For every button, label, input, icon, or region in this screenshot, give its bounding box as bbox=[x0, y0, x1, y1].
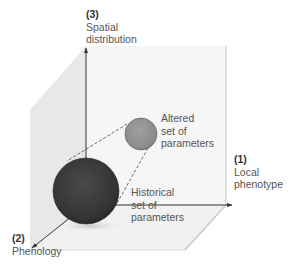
axis-3-label: (3) Spatial distribution bbox=[86, 8, 137, 46]
axis-2-number: (2) bbox=[12, 232, 62, 245]
axis-1-number: (1) bbox=[234, 153, 283, 166]
axis-2-title-line1: Phenology bbox=[12, 245, 62, 258]
axis-1-title-line2: phenotype bbox=[234, 178, 283, 191]
axis-1-label: (1) Local phenotype bbox=[234, 153, 283, 191]
historical-parameters-label: Historical set of parameters bbox=[131, 186, 184, 224]
altered-label-line1: Altered bbox=[161, 112, 214, 125]
3d-parameter-space-diagram bbox=[0, 0, 298, 267]
altered-parameters-label: Altered set of parameters bbox=[161, 112, 214, 150]
axis-1-title-line1: Local bbox=[234, 166, 283, 179]
altered-label-line2: set of bbox=[161, 125, 214, 138]
axis-3-number: (3) bbox=[86, 8, 137, 21]
axis-3-title-line1: Spatial bbox=[86, 21, 137, 34]
historical-parameters-sphere bbox=[53, 158, 119, 224]
altered-label-line3: parameters bbox=[161, 137, 214, 150]
axis-2-label: (2) Phenology bbox=[12, 232, 62, 257]
historical-label-line1: Historical bbox=[131, 186, 184, 199]
historical-label-line2: set of bbox=[131, 199, 184, 212]
altered-parameters-sphere bbox=[125, 118, 157, 150]
historical-label-line3: parameters bbox=[131, 211, 184, 224]
axis-3-title-line2: distribution bbox=[86, 33, 137, 46]
